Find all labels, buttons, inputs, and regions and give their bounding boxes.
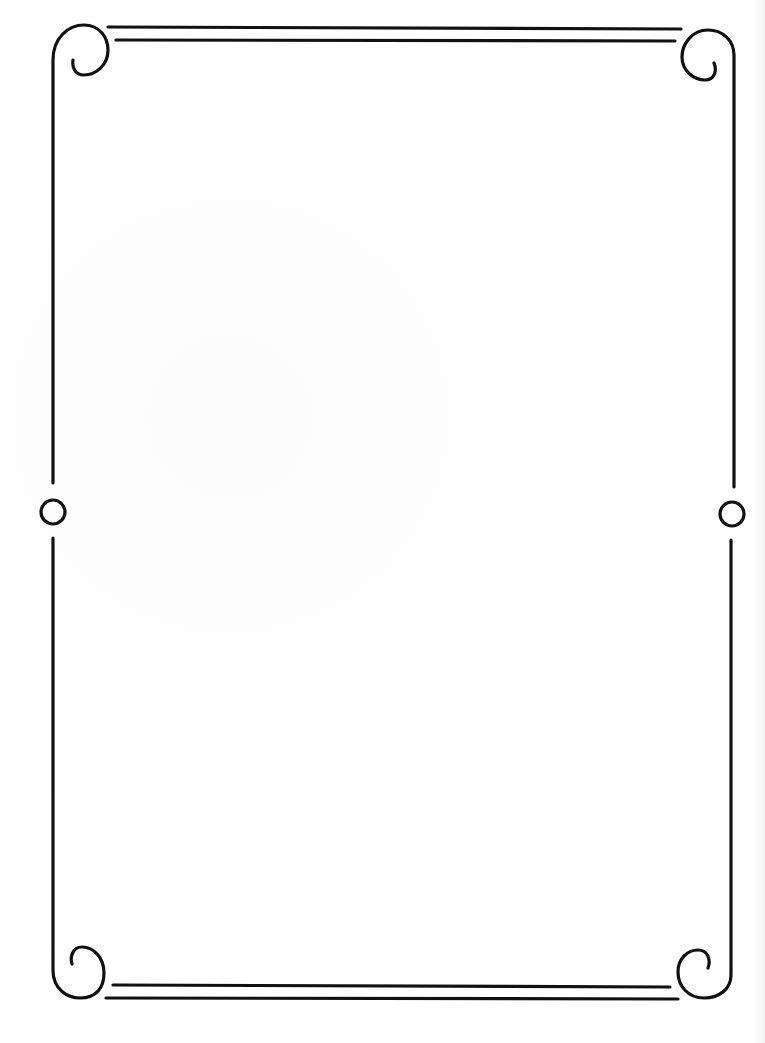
left-ring-icon: [41, 500, 65, 524]
top-left-scroll-icon: [53, 25, 108, 483]
bottom-right-scroll-icon: [678, 540, 731, 998]
bottom-left-scroll-icon: [53, 538, 104, 998]
top-double-rule: [108, 27, 681, 41]
top-right-scroll-icon: [682, 30, 734, 487]
right-ring-icon: [720, 502, 744, 526]
bottom-double-rule: [106, 985, 678, 999]
